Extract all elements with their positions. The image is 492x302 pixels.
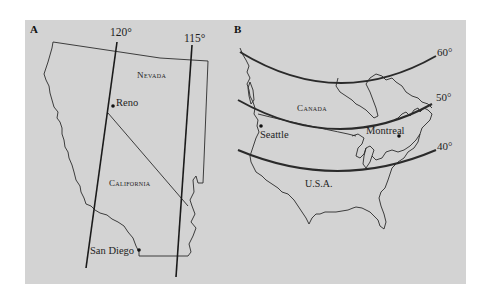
vancouver-island-outline [248,82,254,104]
parallel-label-60: 60° [437,46,452,58]
map-figure: A 120° 115° Nevada California Reno San D… [0,0,492,302]
meridian-label-115: 115° [184,32,206,44]
great-lakes-outline [352,134,420,160]
city-dot-seattle [259,124,263,128]
region-label-canada: Canada [297,103,327,113]
meridian-label-120: 120° [110,26,132,38]
panel-letter-a: A [30,23,38,35]
california-nevada-outline [44,42,208,256]
region-label-california: California [109,178,151,188]
region-label-usa: U.S.A. [305,178,333,189]
city-label-san-diego: San Diego [90,245,134,256]
nevada-california-border [108,113,188,206]
map-a: A 120° 115° Nevada California Reno San D… [30,23,208,277]
parallel-40 [238,150,436,171]
parallel-label-50: 50° [436,91,451,103]
city-label-reno: Reno [116,97,138,108]
city-label-seattle: Seattle [260,129,289,140]
city-label-montreal: Montreal [366,125,405,136]
lake-michigan-outline [363,148,372,168]
panel-letter-b: B [234,23,242,35]
region-label-nevada: Nevada [137,70,166,80]
parallel-label-40: 40° [437,140,452,152]
map-b: B 60° 50° 40° Canada U.S.A. Seattle Mont… [234,23,452,229]
city-dot-san-diego [137,248,141,252]
meridian-120 [86,42,117,268]
city-dot-reno [111,104,115,108]
